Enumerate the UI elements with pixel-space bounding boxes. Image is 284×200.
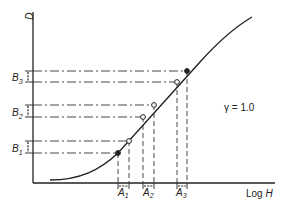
a3-label: A3 [175, 187, 187, 199]
x-axis-label: Log H [246, 188, 273, 199]
open-point-marker [127, 139, 132, 144]
b2-label: B2 [12, 107, 23, 120]
filled-point-marker [116, 151, 121, 156]
filled-point-marker [185, 69, 190, 74]
b3-label: B3 [12, 72, 23, 85]
characteristic-curve-diagram: D Log H γ = 1.0 B1 B2 B3 A1 A2 A3 [0, 0, 284, 200]
characteristic-curve [50, 17, 252, 180]
b1-label: B1 [12, 143, 23, 156]
open-point-marker [175, 80, 180, 85]
y-axis-label: D [24, 12, 35, 19]
open-point-marker [152, 103, 157, 108]
open-point-marker [141, 115, 146, 120]
gamma-label: γ = 1.0 [224, 102, 255, 113]
a2-label: A2 [142, 187, 154, 199]
a1-label: A1 [117, 187, 129, 199]
